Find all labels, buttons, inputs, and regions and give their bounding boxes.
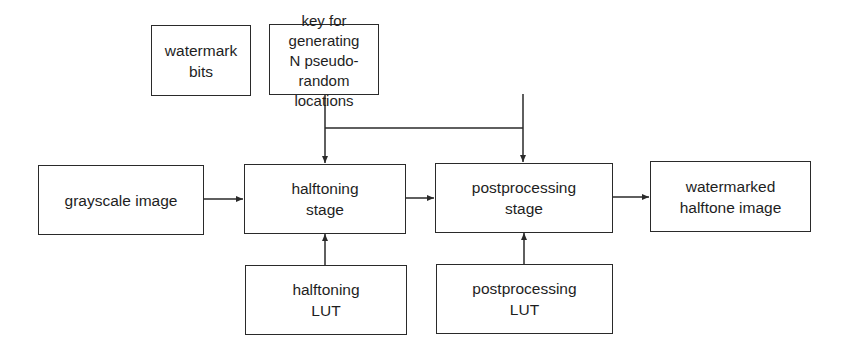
watermarked-halftone-image-box: watermarked halftone image (650, 161, 811, 232)
watermark-bits-box: watermark bits (151, 25, 251, 96)
postprocessing-lut-box: postprocessing LUT (436, 264, 613, 334)
key-generator-box: key for generating N pseudo-random locat… (269, 24, 379, 95)
halftoning-lut-box: halftoning LUT (245, 265, 407, 335)
postprocessing-stage-box: postprocessing stage (435, 163, 613, 233)
grayscale-image-box: grayscale image (38, 165, 204, 235)
halftoning-stage-box: halftoning stage (244, 164, 406, 234)
